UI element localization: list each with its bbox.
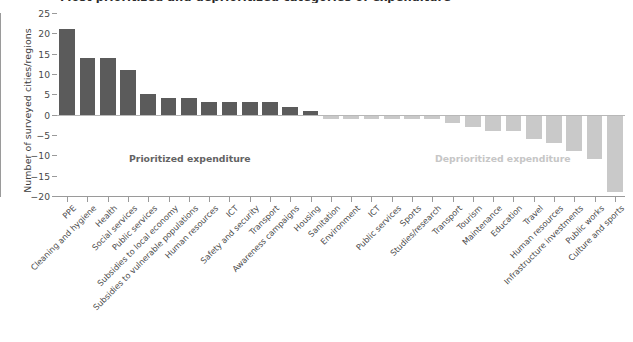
- bar: [607, 115, 623, 192]
- bar: [282, 107, 298, 115]
- x-tick-mark: [148, 197, 149, 202]
- y-tick-label: 20: [16, 28, 50, 39]
- bar: [526, 115, 542, 139]
- y-tick-mark: [52, 74, 57, 75]
- x-tick-mark: [128, 197, 129, 202]
- bar: [201, 102, 217, 114]
- x-tick-mark: [189, 197, 190, 202]
- y-tick-label: −10: [16, 150, 50, 161]
- x-tick-mark: [331, 197, 332, 202]
- x-tick-mark: [615, 197, 616, 202]
- x-tick-label: ICT: [366, 203, 382, 219]
- bar: [181, 98, 197, 114]
- bar: [465, 115, 481, 127]
- x-tick-mark: [493, 197, 494, 202]
- bar: [140, 94, 156, 114]
- x-tick-mark: [432, 197, 433, 202]
- bar: [587, 115, 603, 160]
- y-tick-label: 10: [16, 69, 50, 80]
- x-tick-mark: [595, 197, 596, 202]
- y-tick-mark: [52, 13, 57, 14]
- y-tick-mark: [52, 94, 57, 95]
- x-tick-mark: [311, 197, 312, 202]
- y-tick-label: 15: [16, 48, 50, 59]
- x-tick-mark: [87, 197, 88, 202]
- y-tick-label: −5: [16, 130, 50, 141]
- x-tick-mark: [574, 197, 575, 202]
- bar: [80, 58, 96, 115]
- y-tick-label: −15: [16, 170, 50, 181]
- x-tick-mark: [67, 197, 68, 202]
- x-tick-mark: [513, 197, 514, 202]
- x-tick-mark: [209, 197, 210, 202]
- bar: [546, 115, 562, 143]
- y-tick-label: −20: [16, 191, 50, 202]
- x-tick-mark: [473, 197, 474, 202]
- y-tick-mark: [52, 33, 57, 34]
- zero-baseline: [57, 115, 625, 116]
- y-tick-mark: [52, 135, 57, 136]
- y-tick-label: 5: [16, 89, 50, 100]
- bar: [506, 115, 522, 131]
- x-tick-mark: [412, 197, 413, 202]
- chart-figure: Most prioritized and deprioritized categ…: [0, 0, 633, 342]
- y-tick-mark: [52, 155, 57, 156]
- x-tick-mark: [169, 197, 170, 202]
- x-tick-mark: [534, 197, 535, 202]
- x-tick-mark: [108, 197, 109, 202]
- bar: [161, 98, 177, 114]
- bar: [59, 29, 75, 114]
- x-tick-mark: [554, 197, 555, 202]
- x-axis-spine: [57, 196, 625, 197]
- x-tick-mark: [371, 197, 372, 202]
- x-tick-mark: [250, 197, 251, 202]
- y-axis-spine: [0, 13, 1, 197]
- y-tick-label: 0: [16, 109, 50, 120]
- x-tick-mark: [229, 197, 230, 202]
- x-tick-mark: [392, 197, 393, 202]
- y-tick-mark: [52, 54, 57, 55]
- bar: [222, 102, 238, 114]
- y-tick-mark: [52, 196, 57, 197]
- x-tick-mark: [351, 197, 352, 202]
- x-tick-label: ICT: [224, 203, 240, 219]
- bar: [445, 115, 461, 123]
- annotation-deprioritized: Deprioritized expenditure: [435, 153, 571, 164]
- bar: [242, 102, 258, 114]
- chart-title: Most prioritized and deprioritized categ…: [60, 0, 460, 3]
- y-tick-mark: [52, 176, 57, 177]
- x-tick-mark: [290, 197, 291, 202]
- y-tick-label: 25: [16, 8, 50, 19]
- x-tick-mark: [270, 197, 271, 202]
- x-tick-mark: [453, 197, 454, 202]
- bar: [262, 102, 278, 114]
- bar: [120, 70, 136, 115]
- annotation-prioritized: Prioritized expenditure: [129, 153, 251, 164]
- bar: [485, 115, 501, 131]
- bar: [566, 115, 582, 152]
- bar: [100, 58, 116, 115]
